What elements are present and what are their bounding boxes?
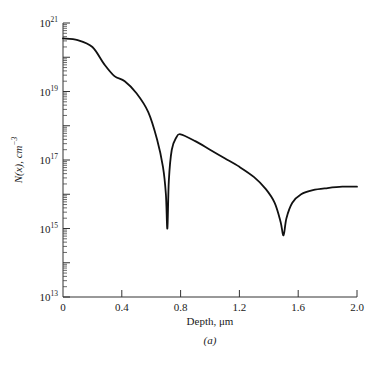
svg-text:N(x), cm−3: N(x), cm−3 <box>10 136 25 184</box>
y-tick-label: 1021 <box>40 15 59 29</box>
x-axis-ticks: 00.40.81.21.62.0 <box>60 290 364 313</box>
y-tick-label: 1017 <box>40 152 59 166</box>
x-tick-label: 0.8 <box>174 301 188 313</box>
y-axis-ticks: 10211019101710151013 <box>40 15 71 303</box>
axes <box>63 23 357 297</box>
x-axis-title: Depth, μm <box>187 315 234 327</box>
x-tick-label: 0.4 <box>115 301 129 313</box>
panel-label: (a) <box>204 334 217 347</box>
plot-area <box>63 38 357 235</box>
y-axis-title: N(x), cm−3 <box>10 136 25 184</box>
y-tick-label: 1015 <box>40 221 59 235</box>
x-tick-label: 1.6 <box>291 301 305 313</box>
x-tick-label: 2.0 <box>350 301 364 313</box>
y-tick-label: 1019 <box>40 84 59 98</box>
y-tick-label: 1013 <box>40 289 59 303</box>
doping-profile-chart: 10211019101710151013 00.40.81.21.62.0 De… <box>0 0 387 367</box>
concentration-curve <box>63 38 357 235</box>
x-tick-label: 1.2 <box>233 301 247 313</box>
x-tick-label: 0 <box>60 301 66 313</box>
